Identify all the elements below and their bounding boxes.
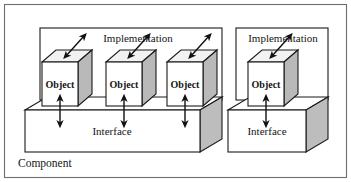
object-cube-4: Object: [248, 50, 298, 106]
component-object-interface-diagram: Interface Object Object Objec: [0, 0, 351, 182]
implementation-label-right: Implementation: [248, 32, 318, 44]
diagram-canvas: Interface Object Object Objec: [0, 0, 351, 182]
object-label-4: Object: [252, 79, 282, 90]
object-label-2: Object: [110, 79, 140, 90]
left-group: Interface Object Object Objec: [25, 28, 222, 152]
component-label: Component: [18, 157, 72, 170]
object-cube-3: Object: [167, 50, 217, 106]
interface-label-left: Interface: [92, 125, 131, 137]
object-label-1: Object: [46, 79, 76, 90]
object-label-3: Object: [171, 79, 201, 90]
object-cube-1: Object: [42, 50, 92, 106]
interface-label-right: Interface: [247, 125, 286, 137]
object-cube-2: Object: [106, 50, 156, 106]
implementation-label-left: Implementation: [103, 32, 173, 44]
right-group: Interface Object Implementation: [228, 28, 328, 152]
